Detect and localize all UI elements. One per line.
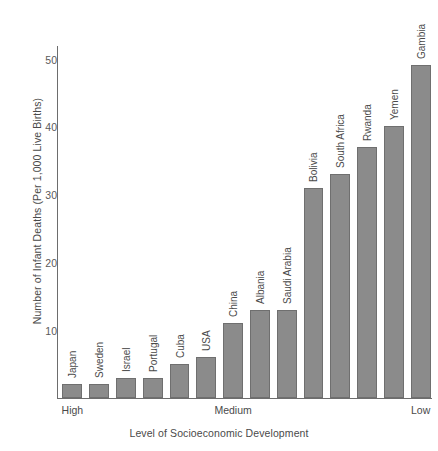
y-tick-label: 10 [17, 325, 57, 337]
bar-group[interactable]: USA [196, 45, 216, 398]
bar-label: Bolivia [309, 152, 319, 181]
bar-group[interactable]: China [223, 45, 243, 398]
bar-rect[interactable] [170, 364, 190, 398]
bars-layer: JapanSwedenIsraelPortugalCubaUSAChinaAlb… [57, 46, 432, 398]
bar-group[interactable]: Yemen [384, 45, 404, 398]
bar-rect[interactable] [277, 310, 297, 398]
bar-rect[interactable] [357, 147, 377, 398]
bar-chart: Number of Infant Deaths (Per 1,000 Live … [0, 0, 438, 451]
bar-label: Albania [256, 270, 266, 303]
bar-label: China [229, 291, 239, 317]
bar-group[interactable]: South Africa [330, 45, 350, 398]
bar-label: Japan [68, 351, 78, 378]
x-axis-title: Level of Socioeconomic Development [0, 427, 438, 439]
bar-group[interactable]: Japan [62, 45, 82, 398]
bar-group[interactable]: Israel [116, 45, 136, 398]
bar-rect[interactable] [384, 126, 404, 398]
bar-label: USA [202, 331, 212, 352]
bar-rect[interactable] [411, 65, 431, 398]
bar-label: Saudi Arabia [283, 247, 293, 304]
bar-rect[interactable] [330, 174, 350, 398]
bar-group[interactable]: Portugal [143, 45, 163, 398]
bar-label: Cuba [176, 334, 186, 358]
y-tick-label: 20 [17, 257, 57, 269]
bar-rect[interactable] [116, 378, 136, 398]
bar-label: Yemen [390, 90, 400, 121]
bar-group[interactable]: Saudi Arabia [277, 45, 297, 398]
bar-rect[interactable] [89, 384, 109, 398]
y-tick-label: 30 [17, 189, 57, 201]
bar-group[interactable]: Bolivia [304, 45, 324, 398]
bar-label: Portugal [149, 334, 159, 371]
bar-group[interactable]: Gambia [411, 45, 431, 398]
bar-group[interactable]: Rwanda [357, 45, 377, 398]
bar-label: Israel [122, 347, 132, 371]
bar-label: South Africa [336, 114, 346, 168]
bar-label: Gambia [417, 24, 427, 59]
bar-rect[interactable] [223, 323, 243, 398]
plot-area: JapanSwedenIsraelPortugalCubaUSAChinaAlb… [57, 46, 432, 399]
y-tick-label: 40 [17, 121, 57, 133]
bar-label: Sweden [95, 342, 105, 378]
bar-rect[interactable] [250, 310, 270, 398]
x-axis-group-label: Medium [214, 404, 251, 416]
x-axis-line [57, 398, 432, 399]
bar-group[interactable]: Albania [250, 45, 270, 398]
x-axis-group-label: Low [411, 404, 430, 416]
bar-rect[interactable] [196, 357, 216, 398]
bar-rect[interactable] [143, 378, 163, 398]
bar-label: Rwanda [363, 104, 373, 141]
bar-group[interactable]: Sweden [89, 45, 109, 398]
bar-group[interactable]: Cuba [170, 45, 190, 398]
y-tick-label: 50 [17, 54, 57, 66]
x-axis-group-label: High [62, 404, 84, 416]
bar-rect[interactable] [62, 384, 82, 398]
bar-rect[interactable] [304, 188, 324, 398]
